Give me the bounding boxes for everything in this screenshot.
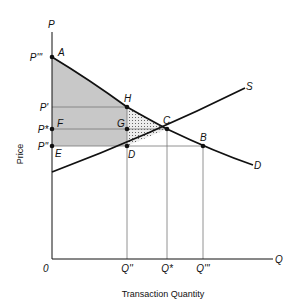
point-label-d: D (128, 149, 135, 160)
point-c (165, 127, 170, 132)
shaded-surplus-area (52, 57, 127, 146)
point-label-g: G (117, 118, 125, 129)
point-e (50, 144, 55, 149)
quantity-label-q-star: Q* (161, 263, 174, 274)
y-axis-title: Price (15, 144, 25, 165)
price-label-p-prime: P' (40, 102, 50, 113)
demand-curve-label: D (254, 160, 261, 171)
point-d (125, 144, 130, 149)
point-b (201, 144, 206, 149)
x-axis-title: Transaction Quantity (122, 289, 205, 299)
price-label-p-triple-prime: P''' (30, 52, 43, 63)
quantity-label-q-double-prime: Q'' (121, 263, 134, 274)
point-label-h: H (124, 93, 132, 104)
point-f (50, 127, 55, 132)
price-label-p-double-prime: P'' (38, 141, 50, 152)
x-axis-letter: Q (275, 254, 283, 265)
supply-demand-diagram: P Q 0 P''' P' P* P'' Q'' Q* Q''' A H F G… (0, 0, 289, 301)
supply-curve-label: S (246, 81, 253, 92)
point-label-a: A (57, 47, 65, 58)
quantity-label-q-triple-prime: Q''' (196, 263, 211, 274)
point-label-b: B (200, 132, 207, 143)
price-label-p-star: P* (38, 124, 50, 135)
point-a (50, 55, 55, 60)
point-label-f: F (57, 118, 64, 129)
point-h (125, 105, 130, 110)
point-g (125, 127, 130, 132)
origin-label: 0 (43, 263, 49, 274)
point-label-e: E (55, 148, 62, 159)
point-label-c: C (163, 115, 171, 126)
y-axis-letter: P (48, 19, 55, 30)
